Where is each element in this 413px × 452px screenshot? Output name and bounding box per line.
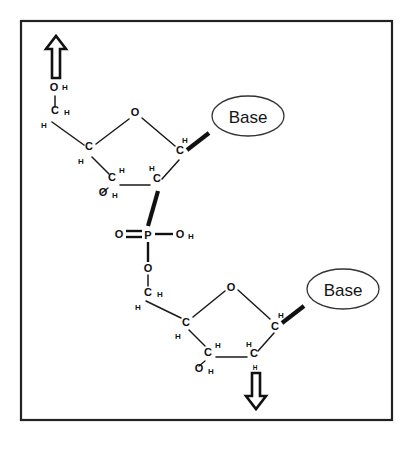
atom-c3b: C [204, 346, 212, 358]
atom-c4-h: H [78, 157, 84, 166]
atom-c4b-h: H [175, 332, 181, 341]
bond-c4-ringo [96, 119, 129, 144]
atom-c3b-hydroxyl-o: O [195, 362, 204, 374]
atom-c2-h: H [149, 164, 155, 173]
bond-c3b-c4b [189, 330, 205, 346]
atom-c5b: C [144, 286, 152, 298]
atom-ring-oxygen-upper: O [131, 106, 140, 118]
atom-c1b: C [271, 320, 279, 332]
atom-c3-hydroxyl-o: O [99, 186, 108, 198]
atom-ring-oxygen-lower: O [227, 281, 236, 293]
atom-c5b-h-right: H [157, 290, 163, 299]
atom-c1-h: H [182, 136, 188, 145]
bond-c4b-ringob [193, 291, 225, 317]
atom-labels-phosphate: P O O H O [115, 228, 194, 274]
figure-border [21, 21, 392, 420]
atom-c3b-hydroxyl-h: H [208, 367, 214, 376]
bond-c1b-base-wedge [282, 306, 304, 323]
bond-c1-c2 [162, 160, 179, 179]
structure-canvas: Base Base O H C H H O C H C H C H O H C [0, 0, 413, 452]
atom-c1b-h: H [278, 311, 284, 320]
atom-o5h-o: O [50, 81, 59, 93]
bond-ringo-c1 [142, 118, 175, 146]
atom-c2b-h: H [246, 340, 252, 349]
atom-c4b: C [182, 316, 190, 328]
bond-c1b-c2b [258, 333, 274, 351]
atom-c3b-h: H [215, 341, 221, 350]
base-upper-label: Base [229, 108, 268, 127]
atom-c3-hydroxyl-h: H [112, 191, 118, 200]
chemical-structure-figure: Base Base O H C H H O C H C H C H O H C [0, 0, 413, 452]
atom-p-double-bonded-o: O [115, 228, 124, 240]
bond-c2-phosphate-wedge [148, 191, 158, 226]
atom-c1: C [176, 144, 184, 156]
atom-c2: C [153, 172, 161, 184]
base-lower-label: Base [324, 281, 363, 300]
atom-p-hydroxyl-o: O [176, 228, 185, 240]
atom-c5: C [51, 104, 59, 116]
atom-p-ester-o: O [144, 262, 153, 274]
atom-o5h-h: H [62, 83, 68, 92]
atom-p-hydroxyl-h: H [188, 232, 194, 241]
atom-c5-h-left: H [41, 121, 47, 130]
bond-c1-base-wedge [187, 133, 209, 150]
atom-c5b-h-left: H [135, 303, 141, 312]
bond-ringob-c1b [238, 290, 270, 319]
atom-c5-h-right: H [64, 108, 70, 117]
bond-c3-c4 [92, 157, 109, 174]
atom-labels-lower: C H H O C H C H C H O H C H H [135, 281, 284, 376]
arrow-down-3-prime [246, 373, 266, 409]
atom-labels-upper: O H C H H O C H C H C H O H C H [41, 81, 188, 200]
atom-c3-h: H [119, 166, 125, 175]
bond-c5-c4 [52, 122, 84, 145]
bond-c5b-c4b [146, 301, 181, 318]
atom-c3: C [108, 171, 116, 183]
atom-phosphorus: P [144, 229, 151, 241]
atom-c4: C [85, 140, 93, 152]
arrow-up-5-prime [46, 36, 66, 78]
atom-c2b-h-down: H [253, 364, 258, 371]
